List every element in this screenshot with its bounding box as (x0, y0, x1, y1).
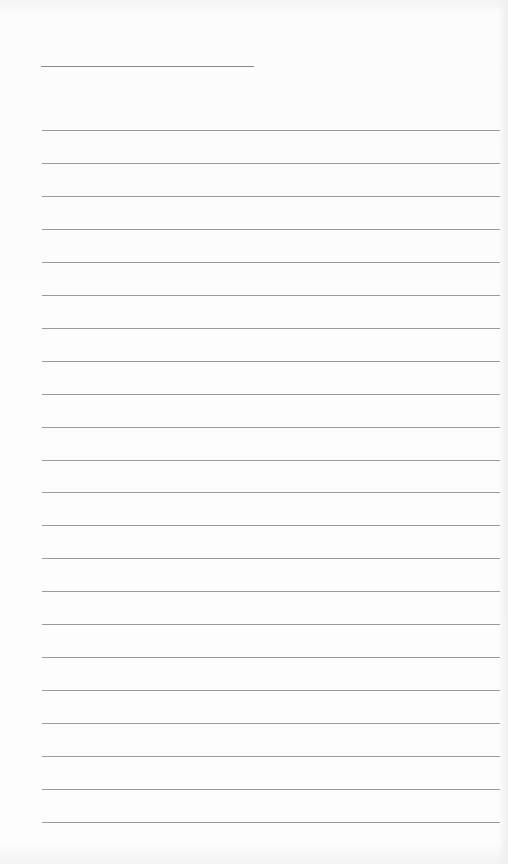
ruled-line (42, 328, 500, 329)
ruled-line (42, 394, 500, 395)
lined-paper-sheet (0, 0, 508, 864)
ruled-line (42, 295, 500, 296)
ruled-line (42, 196, 500, 197)
ruled-line (42, 591, 500, 592)
ruled-line (42, 789, 500, 790)
ruled-line (42, 624, 500, 625)
title-line (41, 66, 254, 67)
ruled-line (42, 492, 500, 493)
ruled-line (42, 460, 500, 461)
ruled-line (42, 427, 500, 428)
ruled-line (42, 690, 500, 691)
ruled-line (42, 525, 500, 526)
ruled-line (42, 130, 500, 131)
ruled-line (42, 558, 500, 559)
ruled-line (42, 756, 500, 757)
ruled-line (42, 822, 500, 823)
ruled-line (42, 163, 500, 164)
ruled-line (42, 723, 500, 724)
ruled-line (42, 361, 500, 362)
ruled-line (42, 262, 500, 263)
ruled-line (42, 657, 500, 658)
ruled-line (42, 229, 500, 230)
